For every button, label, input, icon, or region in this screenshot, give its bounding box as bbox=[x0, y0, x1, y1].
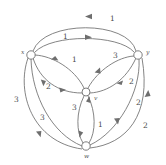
node-circle[interactable] bbox=[82, 142, 90, 150]
edge-y-x-outer bbox=[33, 14, 136, 51]
node-label-w: w bbox=[84, 152, 90, 159]
edge-path bbox=[88, 96, 94, 143]
arrow-head-icon bbox=[95, 68, 101, 74]
edge-path bbox=[78, 96, 84, 143]
arrow-head-icon bbox=[79, 130, 84, 137]
edge-x-y-inner bbox=[35, 35, 134, 52]
arrow-head-icon bbox=[51, 56, 58, 60]
edge-path bbox=[33, 28, 136, 51]
node-y[interactable]: y bbox=[134, 48, 150, 59]
arrow-head-icon bbox=[114, 118, 120, 125]
edge-w-v-right bbox=[86, 96, 94, 143]
node-w[interactable]: w bbox=[82, 142, 90, 159]
edge-weight-label: 3 bbox=[113, 51, 118, 60]
edge-weight-label: 3 bbox=[40, 113, 45, 122]
edge-weight-label: 1 bbox=[63, 32, 68, 41]
node-circle[interactable] bbox=[134, 51, 142, 59]
edge-path bbox=[35, 39, 134, 53]
arrow-head-icon bbox=[145, 90, 151, 97]
edge-weight-label: 2 bbox=[46, 82, 51, 91]
edge-weight-label: 2 bbox=[143, 121, 148, 130]
arrow-head-icon bbox=[85, 35, 92, 40]
edge-v-w-left bbox=[78, 96, 84, 143]
edge-weight-label: 3 bbox=[72, 103, 77, 112]
node-label-y: y bbox=[145, 48, 150, 56]
node-circle[interactable] bbox=[82, 88, 90, 96]
node-circle[interactable] bbox=[27, 51, 35, 59]
graph-canvas: x y v w 1 1 1 3 2 2 2 2 3 3 3 1 bbox=[0, 0, 166, 165]
edge-weight-label: 2 bbox=[136, 98, 141, 107]
edge-weight-label: 2 bbox=[129, 77, 134, 86]
node-label-v: v bbox=[94, 94, 98, 101]
arrow-head-icon bbox=[85, 14, 92, 19]
edge-weight-label: 1 bbox=[98, 120, 103, 129]
edge-weight-label: 3 bbox=[14, 95, 19, 104]
arrow-head-icon bbox=[36, 131, 41, 137]
edge-weight-label: 1 bbox=[72, 55, 77, 64]
arrow-head-icon bbox=[59, 87, 66, 92]
node-label-x: x bbox=[21, 48, 25, 55]
edge-weight-label: 1 bbox=[110, 14, 115, 23]
graph-figure: x y v w 1 1 1 3 2 2 2 2 3 3 3 1 bbox=[0, 0, 166, 165]
